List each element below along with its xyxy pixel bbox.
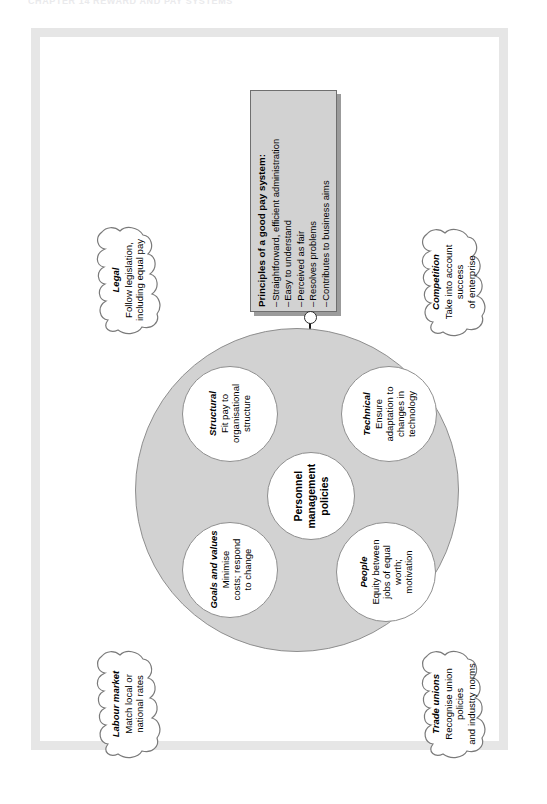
principles-item: Straightforward, efficient administratio…: [269, 95, 281, 307]
policy-circle-title: Goals and values: [207, 531, 218, 609]
principles-heading: Principles of a good pay system:: [255, 95, 266, 307]
policy-circle-description: Minimise costs; respond to change: [219, 531, 252, 609]
principles-item: Perceived as fair: [294, 95, 306, 307]
policy-circle-title: People: [358, 540, 369, 605]
policy-circle-title: Technical: [361, 387, 372, 442]
principles-list: Straightforward, efficient administratio…: [269, 95, 331, 307]
callout-legal: Legal Follow legislation, including equa…: [92, 222, 164, 338]
policy-circle-title: Structural: [207, 384, 218, 443]
policy-circle-description: Fit pay to organisational structure: [219, 384, 252, 443]
callout-description: Follow legislation, including equal pay: [123, 228, 146, 332]
policy-circle-goals-and-values-content: Goals and values Minimise costs; respond…: [207, 531, 252, 609]
callout-description: Take into account success of enterprise: [442, 230, 477, 334]
callout-title: Competition: [430, 230, 442, 334]
principles-item: Contributes to business aims: [319, 95, 331, 307]
callout-title: Trade unions: [430, 652, 442, 756]
callout-description: Match local or national rates: [123, 652, 146, 756]
callout-labour-market-content: Labour market Match local or national ra…: [110, 652, 146, 756]
callout-competition: Competition Take into account success of…: [417, 224, 489, 340]
callout-labour-market: Labour market Match local or national ra…: [92, 646, 164, 762]
policy-circle-description: Ensure adaptation to changes in technolo…: [373, 387, 417, 442]
callout-competition-content: Competition Take into account success of…: [430, 230, 477, 334]
principles-item: Easy to understand: [282, 95, 294, 307]
policy-circle-description: Equity between jobs of equal worth; moti…: [370, 540, 414, 605]
policy-circle-structural: Structural Fit pay to organisational str…: [182, 366, 278, 462]
principles-box: Principles of a good pay system: Straigh…: [250, 90, 337, 312]
callout-description: Recognise union policies and industry no…: [442, 652, 477, 756]
callout-title: Labour market: [110, 652, 122, 756]
policy-circle-technical-content: Technical Ensure adaptation to changes i…: [361, 387, 417, 442]
policy-circle-people: People Equity between jobs of equal wort…: [336, 522, 436, 622]
callout-title: Legal: [110, 228, 122, 332]
policy-circle-technical: Technical Ensure adaptation to changes i…: [341, 366, 437, 462]
core-circle: Personnel management policies: [267, 452, 355, 540]
core-circle-label: Personnel management policies: [292, 464, 330, 529]
callout-trade-unions: Trade unions Recognise union policies an…: [417, 646, 489, 762]
diagram-canvas: Principles of a good pay system: Straigh…: [31, 28, 508, 750]
policy-circle-structural-content: Structural Fit pay to organisational str…: [207, 384, 252, 443]
policy-circle-goals-and-values: Goals and values Minimise costs; respond…: [182, 522, 278, 618]
policy-circle-people-content: People Equity between jobs of equal wort…: [358, 540, 414, 605]
callout-trade-unions-content: Trade unions Recognise union policies an…: [430, 652, 477, 756]
principles-item: Resolves problems: [307, 95, 319, 307]
connector-node-top-icon: [304, 311, 317, 324]
running-head: CHAPTER 14 REWARD AND PAY SYSTEMS: [28, 0, 328, 8]
principles-box-content: Principles of a good pay system: Straigh…: [255, 95, 331, 307]
callout-legal-content: Legal Follow legislation, including equa…: [110, 228, 146, 332]
